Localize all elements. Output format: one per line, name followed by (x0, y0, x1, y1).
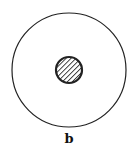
figure-label: b (0, 131, 132, 146)
inner-hatched-circle (56, 57, 82, 83)
